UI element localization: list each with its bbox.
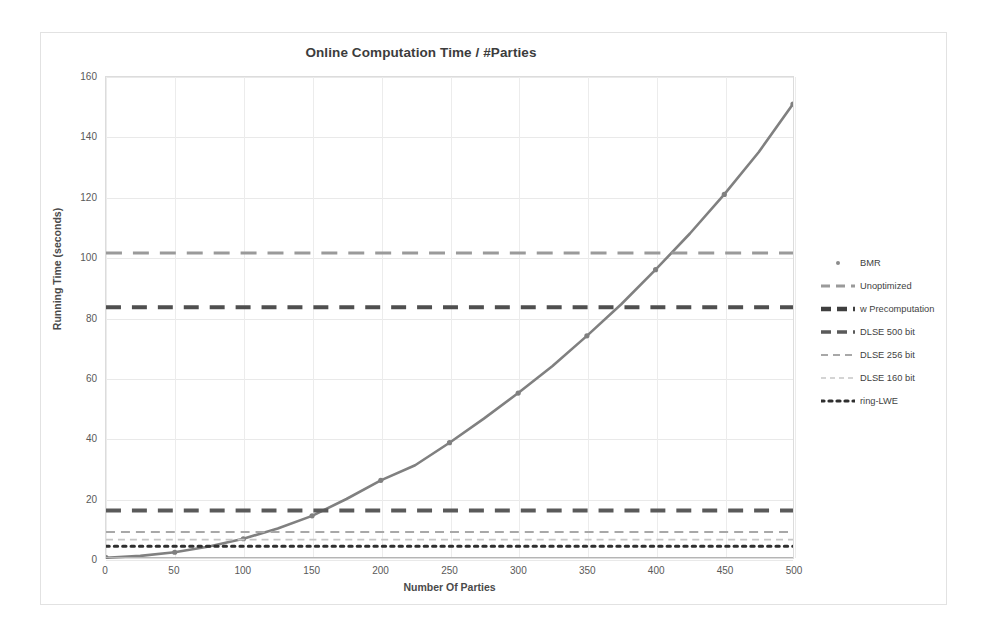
y-tick-label: 100 [80, 252, 97, 263]
x-tick-label: 300 [510, 565, 527, 576]
legend-swatch-icon [821, 349, 855, 361]
x-tick-label: 100 [234, 565, 251, 576]
x-tick-label: 250 [441, 565, 458, 576]
y-tick-label: 0 [91, 554, 97, 565]
series-marker-bmr [584, 333, 589, 338]
legend-swatch-icon [821, 257, 855, 269]
legend-item-bmr[interactable]: BMR [821, 251, 946, 274]
series-marker-bmr [516, 390, 521, 395]
x-tick-label: 400 [648, 565, 665, 576]
legend-swatch-icon [821, 395, 855, 407]
legend-dash-icon [821, 303, 855, 315]
x-axis-ticks: 050100150200250300350400450500 [105, 559, 794, 581]
series-marker-bmr [378, 478, 383, 483]
legend-item-label: DLSE 160 bit [860, 373, 915, 383]
x-tick-label: 200 [372, 565, 389, 576]
legend-dash-icon [821, 395, 855, 407]
series-marker-bmr [653, 267, 658, 272]
legend-swatch-icon [821, 280, 855, 292]
gridline-vertical [795, 77, 796, 558]
legend-item-dlse-256-bit[interactable]: DLSE 256 bit [821, 343, 946, 366]
chart-legend: BMRUnoptimizedw PrecomputationDLSE 500 b… [821, 251, 946, 412]
legend-item-label: DLSE 256 bit [860, 350, 915, 360]
legend-marker-dot-icon [836, 261, 840, 265]
x-tick-label: 350 [579, 565, 596, 576]
legend-swatch-icon [821, 303, 855, 315]
legend-dash-icon [821, 280, 855, 292]
x-tick-label: 500 [786, 565, 803, 576]
plot-area [105, 76, 794, 559]
series-layer [106, 77, 793, 559]
x-tick-label: 0 [102, 565, 108, 576]
y-tick-label: 40 [86, 433, 97, 444]
y-axis-ticks: 020406080100120140160 [41, 76, 105, 559]
x-tick-label: 450 [717, 565, 734, 576]
legend-dash-icon [821, 372, 855, 384]
chart-container: Online Computation Time / #Parties Runni… [40, 32, 947, 605]
legend-item-ring-lwe[interactable]: ring-LWE [821, 389, 946, 412]
x-axis-line [106, 557, 793, 558]
series-line-bmr [106, 104, 793, 558]
legend-dash-icon [821, 326, 855, 338]
legend-item-w-precomputation[interactable]: w Precomputation [821, 297, 946, 320]
legend-item-dlse-500-bit[interactable]: DLSE 500 bit [821, 320, 946, 343]
y-tick-label: 20 [86, 493, 97, 504]
legend-swatch-icon [821, 372, 855, 384]
series-marker-bmr [172, 550, 177, 555]
y-tick-label: 80 [86, 312, 97, 323]
legend-item-label: DLSE 500 bit [860, 327, 915, 337]
legend-item-label: Unoptimized [860, 281, 912, 291]
legend-item-label: w Precomputation [860, 304, 934, 314]
legend-item-unoptimized[interactable]: Unoptimized [821, 274, 946, 297]
series-marker-bmr [310, 513, 315, 518]
x-tick-label: 150 [303, 565, 320, 576]
y-tick-label: 60 [86, 372, 97, 383]
y-tick-label: 160 [80, 71, 97, 82]
x-axis-title: Number Of Parties [105, 581, 794, 593]
x-tick-label: 50 [168, 565, 179, 576]
series-marker-bmr [722, 192, 727, 197]
chart-title: Online Computation Time / #Parties [41, 45, 801, 60]
y-tick-label: 120 [80, 191, 97, 202]
legend-dash-icon [821, 349, 855, 361]
y-tick-label: 140 [80, 131, 97, 142]
legend-item-label: ring-LWE [860, 396, 898, 406]
legend-item-label: BMR [860, 258, 881, 268]
series-marker-bmr [241, 536, 246, 541]
legend-swatch-icon [821, 326, 855, 338]
series-marker-bmr [447, 440, 452, 445]
legend-item-dlse-160-bit[interactable]: DLSE 160 bit [821, 366, 946, 389]
